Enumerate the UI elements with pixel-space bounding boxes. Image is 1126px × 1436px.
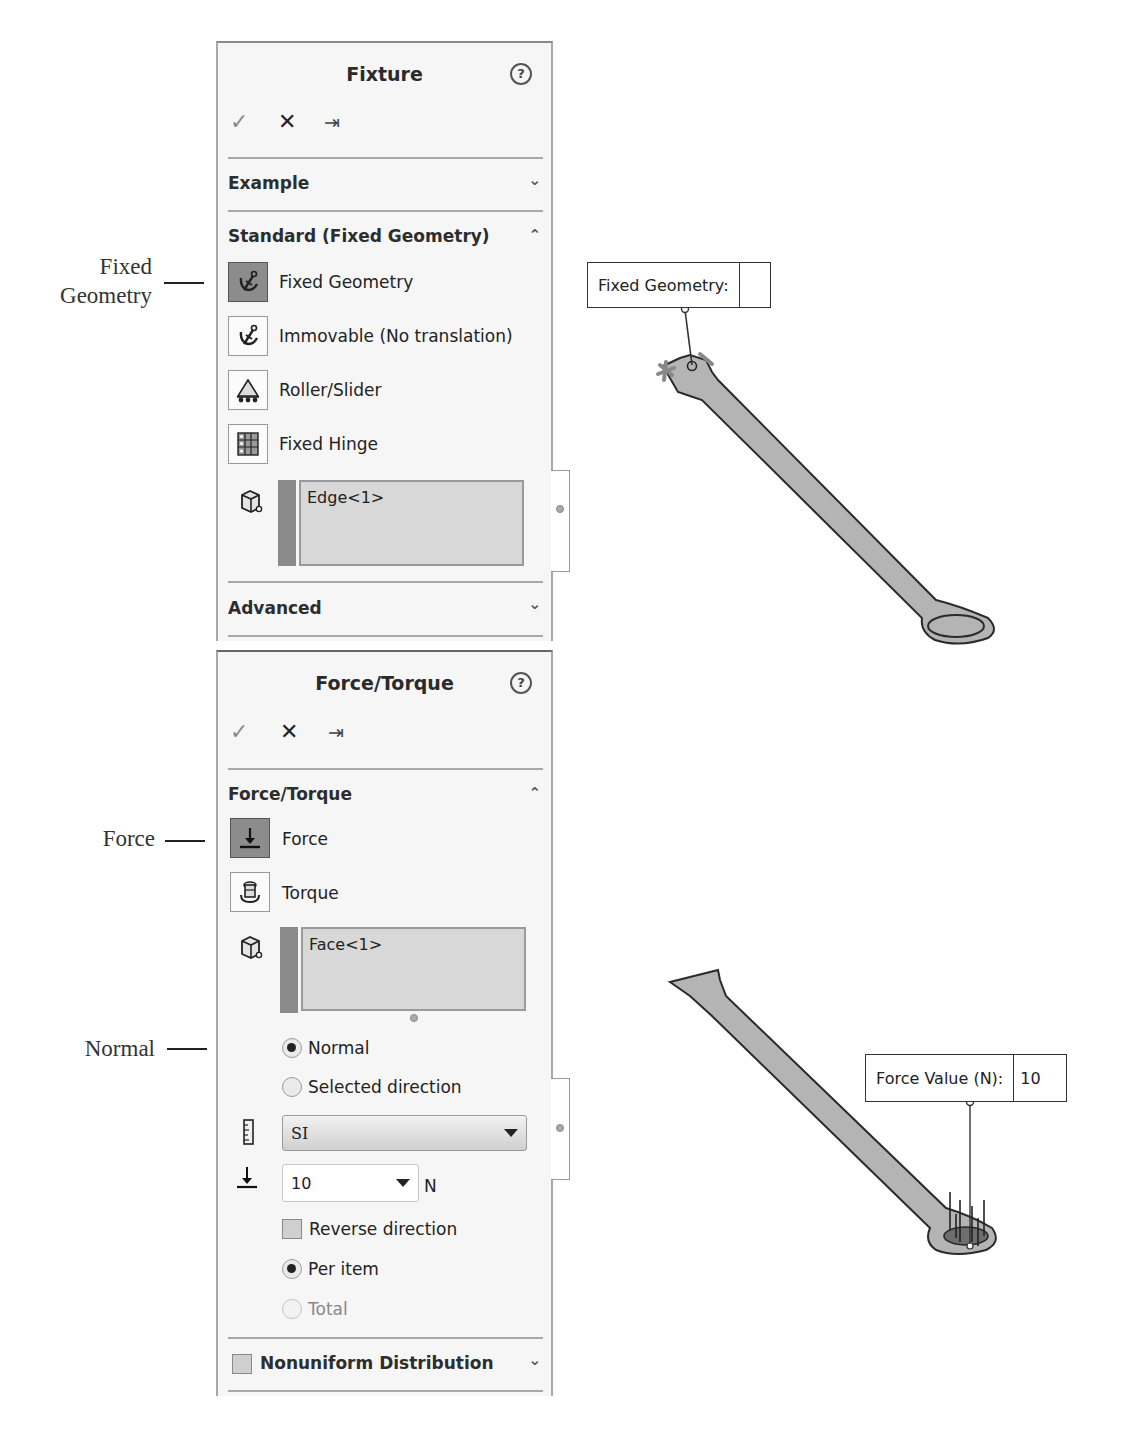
divider (228, 1337, 543, 1339)
panel-resize-handle[interactable] (556, 1124, 564, 1132)
selection-cube-icon (238, 934, 264, 962)
ok-check-icon[interactable]: ✓ (230, 720, 248, 744)
wrench-part-fixture-view[interactable] (600, 300, 1020, 660)
selection-item[interactable]: Edge<1> (307, 488, 384, 507)
ok-check-icon[interactable]: ✓ (230, 110, 248, 134)
face-selection-box[interactable]: Face<1> (301, 927, 526, 1011)
per-item-label[interactable]: Per item (308, 1259, 379, 1279)
force-torque-property-manager: Force/Torque ? ✓ ✕ ⇥ Force/Torque ⌃ Forc… (216, 650, 553, 1396)
edge-selection-box[interactable]: Edge<1> (299, 480, 524, 566)
cancel-x-icon[interactable]: ✕ (278, 110, 296, 134)
annotation-line (167, 1048, 207, 1050)
dropdown-arrow-icon[interactable] (396, 1179, 410, 1187)
fixed-geometry-button[interactable] (228, 262, 268, 302)
divider (228, 210, 543, 212)
divider (228, 768, 543, 770)
chevron-down-icon[interactable]: ⌄ (528, 1351, 541, 1369)
force-arrow-icon (237, 825, 263, 851)
callout-label: Force Value (N): (866, 1055, 1014, 1101)
pushpin-icon[interactable]: ⇥ (324, 110, 340, 134)
cancel-x-icon[interactable]: ✕ (280, 720, 298, 744)
torque-button[interactable] (230, 872, 270, 912)
divider (228, 1390, 543, 1392)
callout-value[interactable]: 10 (1014, 1055, 1066, 1101)
force-label[interactable]: Force (282, 829, 328, 849)
selection-item[interactable]: Face<1> (309, 935, 382, 954)
section-standard[interactable]: Standard (Fixed Geometry) (228, 226, 490, 246)
reverse-direction-checkbox[interactable] (282, 1219, 302, 1239)
annotation-line (165, 840, 205, 842)
fixed-hinge-label[interactable]: Fixed Hinge (279, 434, 378, 454)
fixed-hinge-button[interactable] (228, 424, 268, 464)
force-unit-label: N (424, 1176, 437, 1196)
section-example[interactable]: Example (228, 173, 309, 193)
fixture-property-manager: Fixture ? ✓ ✕ ⇥ Example ⌄ Standard (Fixe… (216, 41, 553, 641)
panel-title: Force/Torque (218, 672, 551, 694)
selected-direction-label[interactable]: Selected direction (308, 1077, 462, 1097)
help-icon[interactable]: ? (510, 672, 532, 694)
chevron-up-icon[interactable]: ⌃ (528, 226, 541, 244)
chevron-down-icon[interactable]: ⌄ (528, 171, 541, 189)
selection-color-bar (278, 480, 296, 566)
nonuniform-distribution-label[interactable]: Nonuniform Distribution (260, 1353, 494, 1373)
immovable-label[interactable]: Immovable (No translation) (279, 326, 513, 346)
dropdown-arrow-icon[interactable] (504, 1129, 518, 1137)
annotation-line (164, 282, 204, 284)
divider (228, 157, 543, 159)
chevron-down-icon[interactable]: ⌄ (528, 595, 541, 613)
panel-resize-tab[interactable] (551, 470, 570, 572)
total-radio[interactable] (282, 1299, 302, 1319)
force-arrow-icon (234, 1165, 260, 1191)
hinge-icon (234, 430, 262, 458)
unit-system-dropdown[interactable]: SI (282, 1115, 527, 1151)
fixed-geometry-callout[interactable]: Fixed Geometry: (587, 262, 771, 308)
normal-label[interactable]: Normal (308, 1038, 370, 1058)
unit-system-value: SI (291, 1124, 308, 1143)
ruler-units-icon (240, 1118, 258, 1146)
callout-value[interactable] (740, 263, 770, 307)
section-advanced[interactable]: Advanced (228, 598, 322, 618)
anchor-icon (234, 268, 262, 296)
torque-icon (237, 879, 263, 905)
force-value-combo[interactable]: 10 (282, 1164, 419, 1202)
panel-title: Fixture (218, 63, 551, 85)
divider (228, 581, 543, 583)
selected-direction-radio[interactable] (282, 1077, 302, 1097)
annotation-force: Force (60, 824, 155, 853)
force-value-callout[interactable]: Force Value (N): 10 (865, 1054, 1067, 1102)
wrench-part-force-view[interactable] (660, 960, 1020, 1260)
resize-handle[interactable] (410, 1014, 418, 1022)
fixed-geometry-label[interactable]: Fixed Geometry (279, 272, 413, 292)
selection-cube-icon (238, 488, 264, 516)
torque-label[interactable]: Torque (282, 883, 339, 903)
divider (228, 635, 543, 637)
annotation-normal: Normal (40, 1034, 155, 1063)
pushpin-icon[interactable]: ⇥ (328, 720, 344, 744)
help-icon[interactable]: ? (510, 63, 532, 85)
normal-radio[interactable] (282, 1038, 302, 1058)
nonuniform-checkbox[interactable] (232, 1354, 252, 1374)
chevron-up-icon[interactable]: ⌃ (528, 784, 541, 802)
roller-slider-button[interactable] (228, 370, 268, 410)
roller-slider-label[interactable]: Roller/Slider (279, 380, 382, 400)
force-button[interactable] (230, 818, 270, 858)
reverse-direction-label[interactable]: Reverse direction (309, 1219, 457, 1239)
callout-label: Fixed Geometry: (588, 263, 740, 307)
section-force-torque[interactable]: Force/Torque (228, 784, 352, 804)
per-item-radio[interactable] (282, 1259, 302, 1279)
total-label[interactable]: Total (308, 1299, 348, 1319)
force-value-text[interactable]: 10 (291, 1174, 311, 1193)
selection-color-bar (280, 927, 298, 1013)
annotation-fixed-geometry: Fixed Geometry (40, 252, 152, 310)
roller-icon (234, 376, 262, 404)
panel-resize-handle[interactable] (556, 505, 564, 513)
anchor-icon (234, 322, 262, 350)
immovable-button[interactable] (228, 316, 268, 356)
